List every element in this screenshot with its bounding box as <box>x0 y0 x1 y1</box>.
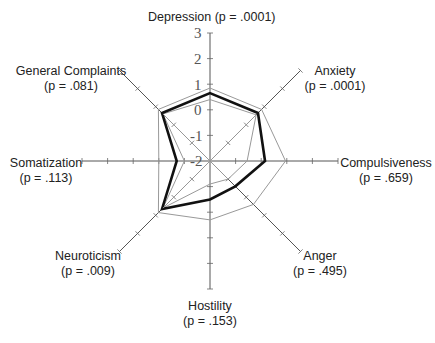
tick-1: 1 <box>194 78 202 93</box>
neuroticism-p: (p = .009) <box>48 264 128 279</box>
neuroticism-name: Neuroticism <box>48 249 128 264</box>
axis-label-compulsiveness: Compulsiveness (p = .659) <box>338 156 434 186</box>
hostility-name: Hostility <box>175 299 245 314</box>
anger-p: (p = .495) <box>290 264 350 279</box>
somatization-name: Somatization <box>6 156 86 171</box>
tick-minus-1: -1 <box>190 129 203 144</box>
hostility-p: (p = .153) <box>175 314 245 329</box>
axis-label-depression: Depression (p = .0001) <box>148 10 274 25</box>
anxiety-name: Anxiety <box>300 64 370 79</box>
tick-0: 0 <box>194 103 202 118</box>
tick-minus-2: -2 <box>190 154 203 169</box>
radar-series <box>158 88 285 220</box>
tick-2: 2 <box>194 52 202 67</box>
compulsiveness-p: (p = .659) <box>338 171 434 186</box>
general-complaints-name: General Complaints <box>12 64 130 79</box>
general-complaints-p: (p = .081) <box>12 79 130 94</box>
axis-label-hostility: Hostility (p = .153) <box>175 299 245 329</box>
axis-label-neuroticism: Neuroticism (p = .009) <box>48 249 128 279</box>
axis-label-general-complaints: General Complaints (p = .081) <box>12 64 130 94</box>
anxiety-p: (p = .0001) <box>300 79 370 94</box>
somatization-p: (p = .113) <box>6 171 86 186</box>
axis-label-anxiety: Anxiety (p = .0001) <box>300 64 370 94</box>
compulsiveness-name: Compulsiveness <box>338 156 434 171</box>
series-main <box>162 93 265 209</box>
axis-label-somatization: Somatization (p = .113) <box>6 156 86 186</box>
tick-3: 3 <box>194 26 202 41</box>
anger-name: Anger <box>290 249 350 264</box>
axis-label-anger: Anger (p = .495) <box>290 249 350 279</box>
